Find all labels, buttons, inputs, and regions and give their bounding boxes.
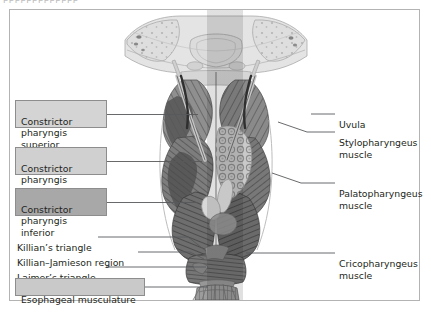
label-constrictor-pharyngis-inferior[interactable]: Constrictor pharyngis inferior — [15, 188, 107, 216]
label-constrictor-pharyngis-medius[interactable]: Constrictor pharyngis medius — [15, 147, 107, 175]
label-stylopharyngeus-muscle[interactable]: Stylopharyngeus muscle — [339, 126, 417, 160]
label-text: Stylopharyngeus muscle — [339, 137, 417, 159]
label-cricopharyngeus-muscle[interactable]: Cricopharyngeus muscle — [339, 247, 418, 281]
label-constrictor-pharyngis-superior[interactable]: Constrictor pharyngis superior — [15, 100, 107, 128]
clipped-caption-text: ppppppppppppp — [0, 0, 79, 3]
label-text: Cricopharyngeus muscle — [339, 258, 418, 280]
label-palatopharyngeus-muscle[interactable]: Palatopharyngeus muscle — [339, 177, 423, 211]
figure-frame: Constrictor pharyngis superior Constrict… — [9, 9, 420, 301]
clipped-caption-remnant: ppppppppppppp — [0, 0, 431, 7]
label-text: Esophageal musculature — [21, 294, 136, 305]
label-text: Palatopharyngeus muscle — [339, 188, 423, 210]
label-esophageal-musculature[interactable]: Esophageal musculature — [15, 278, 145, 296]
